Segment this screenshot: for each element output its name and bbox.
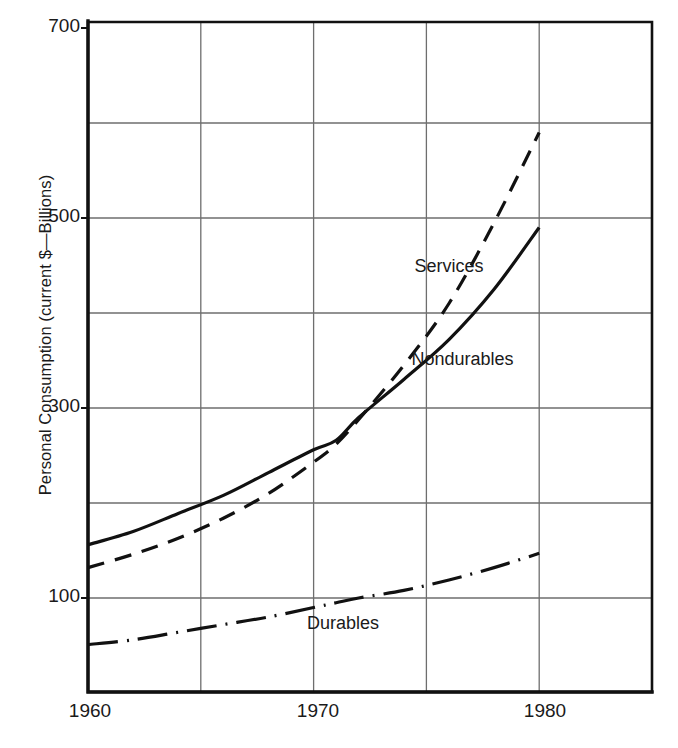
x-tick-label: 1960 <box>69 700 111 722</box>
x-axis-tick-labels: 1960 1970 1980 <box>0 0 678 748</box>
x-tick-label: 1970 <box>297 700 339 722</box>
x-tick-label: 1980 <box>524 700 566 722</box>
chart-figure: Personal Consumption (current $—Billions… <box>0 0 678 748</box>
